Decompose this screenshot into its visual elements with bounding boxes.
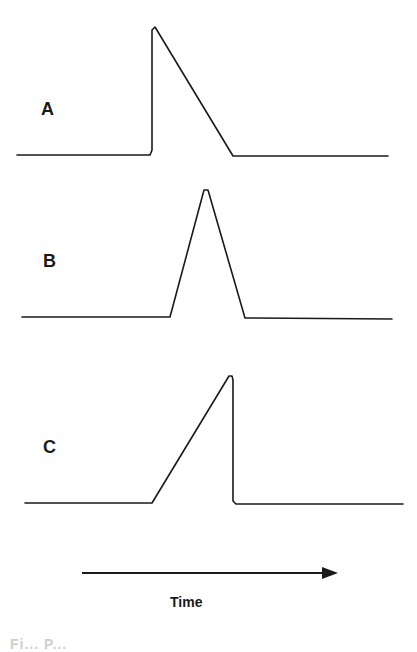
panel-label-b: B	[43, 251, 56, 272]
figure-caption-partial: Fi... P...	[10, 636, 67, 652]
panel-label-c: C	[43, 437, 56, 458]
waveform-c	[25, 376, 403, 504]
time-arrowhead-icon	[322, 567, 338, 579]
waveform-a	[17, 27, 388, 156]
panel-label-a: A	[41, 99, 54, 120]
waveform-b	[22, 190, 392, 319]
time-axis-label: Time	[170, 594, 202, 610]
